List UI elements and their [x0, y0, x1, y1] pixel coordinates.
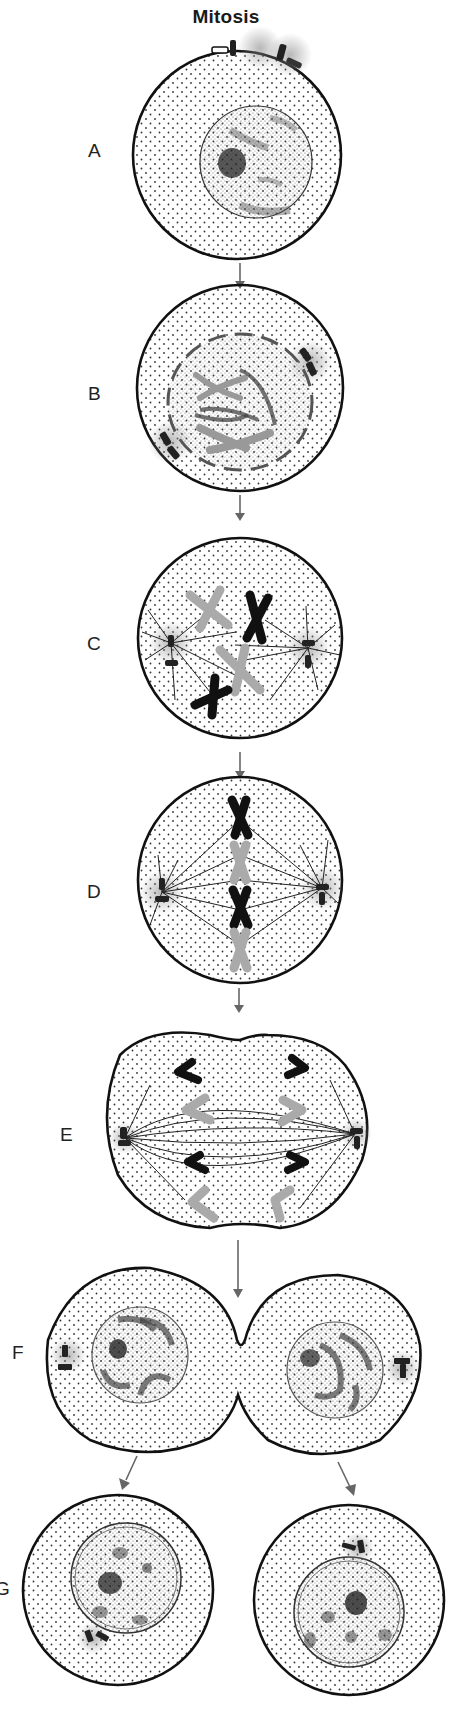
cell-g-left — [23, 1495, 213, 1685]
cell-d — [138, 777, 344, 983]
arrow-f-to-g-left — [119, 1456, 137, 1490]
cell-a — [133, 26, 341, 259]
arrow-b-to-c — [235, 495, 245, 521]
arrow-c-to-d — [235, 752, 245, 779]
centriole-icon — [212, 47, 228, 53]
nucleolus — [98, 1572, 122, 1594]
cell-c — [138, 538, 342, 738]
cell-e — [107, 1033, 372, 1229]
nucleolus — [218, 148, 246, 178]
chromosome-light — [234, 845, 246, 880]
arrow-f-to-g-right — [338, 1462, 356, 1496]
cell-b — [137, 285, 343, 491]
arrow-e-to-f — [233, 1240, 243, 1298]
nucleus — [200, 106, 312, 218]
nucleolus — [345, 1591, 367, 1615]
nucleus — [71, 1523, 181, 1633]
arrow-d-to-e — [234, 988, 244, 1013]
chromosome-light — [234, 932, 247, 968]
cell-f — [47, 1268, 421, 1454]
mitosis-diagram — [0, 0, 452, 1719]
cell-g-right — [254, 1505, 444, 1695]
